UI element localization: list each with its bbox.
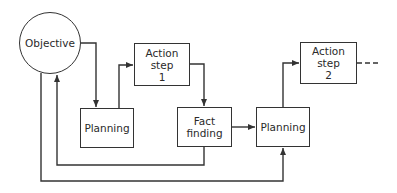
node-fact-finding: Fact finding [177,107,232,147]
node-objective: Objective [19,12,81,74]
edge-action-1-to-fact-finding [190,64,204,106]
node-planning-1-label: Planning [84,122,129,134]
node-action-step-1-label: Action step 1 [146,47,179,83]
node-planning-2-label: Planning [260,121,305,133]
node-action-step-2: Action step 2 [300,42,357,84]
node-planning-2: Planning [256,107,310,147]
edge-objective-to-planning-1 [81,43,96,107]
node-objective-label: Objective [25,37,75,49]
edge-planning-1-to-action-1 [119,65,133,108]
node-action-step-1: Action step 1 [134,43,190,86]
node-fact-finding-label: Fact finding [186,115,222,139]
node-planning-1: Planning [80,108,134,148]
edge-planning-2-to-action-2 [283,63,299,107]
node-action-step-2-label: Action step 2 [312,45,345,81]
